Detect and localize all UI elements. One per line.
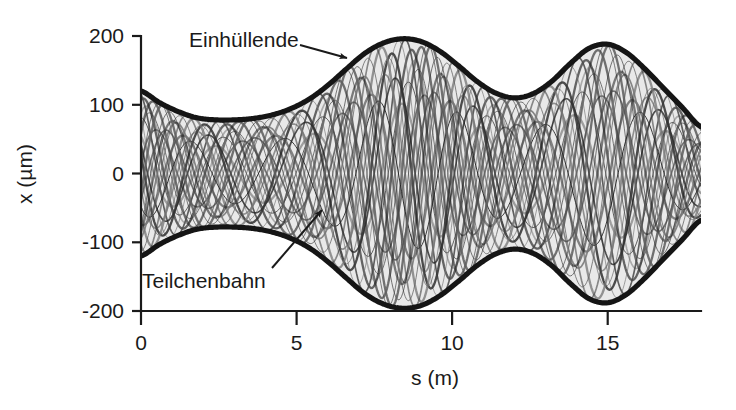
beam-body bbox=[141, 39, 701, 309]
y-tick-label: 100 bbox=[89, 93, 124, 116]
annotation-envelope: Einhüllende bbox=[189, 28, 347, 58]
annotation-arrow-envelope bbox=[300, 45, 347, 58]
plot-canvas: 2001000-100-200 051015 s (m) x (µm) Einh… bbox=[0, 0, 736, 410]
annotation-label-envelope: Einhüllende bbox=[189, 28, 299, 51]
y-axis-ticks bbox=[132, 36, 141, 311]
x-tick-label: 15 bbox=[596, 331, 619, 354]
beam-envelope-figure: 2001000-100-200 051015 s (m) x (µm) Einh… bbox=[0, 0, 736, 410]
y-tick-label: 200 bbox=[89, 24, 124, 47]
annotation-label-trajectory: Teilchenbahn bbox=[142, 269, 266, 292]
y-tick-label: 0 bbox=[112, 162, 124, 185]
y-tick-label: -100 bbox=[82, 230, 124, 253]
x-tick-label: 5 bbox=[291, 331, 303, 354]
x-axis-title: s (m) bbox=[411, 366, 459, 389]
y-axis-title: x (µm) bbox=[13, 144, 36, 204]
x-tick-label: 10 bbox=[440, 331, 463, 354]
x-tick-label: 0 bbox=[135, 331, 147, 354]
y-axis-tick-labels: 2001000-100-200 bbox=[82, 24, 124, 322]
y-tick-label: -200 bbox=[82, 299, 124, 322]
x-axis-ticks bbox=[141, 311, 608, 325]
x-axis-tick-labels: 051015 bbox=[135, 331, 619, 354]
